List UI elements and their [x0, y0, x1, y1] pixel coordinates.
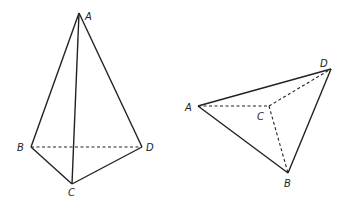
diagram-canvas: A B C D A B C D — [0, 0, 349, 213]
edge-CD-hidden — [269, 69, 331, 106]
edge-BD — [288, 69, 331, 173]
vertex-label-D: D — [320, 58, 328, 69]
vertex-label-A: A — [84, 11, 92, 22]
vertex-label-A: A — [184, 102, 192, 113]
edge-CD — [72, 147, 142, 184]
edge-AB — [31, 13, 79, 147]
vertex-label-B: B — [17, 142, 24, 153]
edge-AB — [198, 106, 288, 173]
tetrahedron-left: A B C D — [17, 11, 154, 198]
edge-AD — [198, 69, 331, 106]
vertex-label-D: D — [146, 142, 154, 153]
edge-BC — [31, 147, 72, 184]
edge-AD — [79, 13, 142, 147]
vertex-label-C: C — [68, 187, 75, 198]
vertex-label-C: C — [257, 111, 264, 122]
edge-AC — [72, 13, 79, 184]
vertex-label-B: B — [284, 178, 291, 189]
edge-CB-hidden — [269, 106, 288, 173]
tetrahedron-right: A B C D — [184, 58, 331, 189]
